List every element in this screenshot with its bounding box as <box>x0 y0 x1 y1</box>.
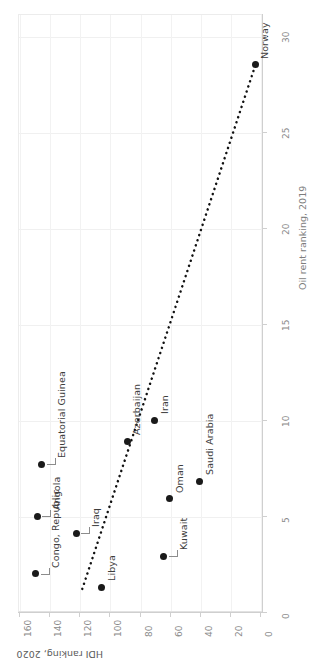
y-tick-label: 140 <box>53 620 63 637</box>
label-leader-line <box>55 458 56 465</box>
y-tick-mark <box>230 613 231 617</box>
y-tick-label: 40 <box>204 626 214 637</box>
y-tick-label: 120 <box>83 620 93 637</box>
label-leader-line <box>49 568 50 575</box>
data-point-label: Saudi Arabia <box>204 414 215 475</box>
x-tick-label: 30 <box>281 32 291 43</box>
data-point-label: Congo, Republic <box>50 489 61 567</box>
oil-rent-axis-spine <box>262 14 263 612</box>
data-point[interactable] <box>38 461 45 468</box>
gridline-vertical <box>141 15 142 611</box>
data-point[interactable] <box>34 513 41 520</box>
data-point[interactable] <box>151 417 158 424</box>
x-tick-mark <box>263 612 267 613</box>
y-tick-mark <box>170 613 171 617</box>
hdi-axis-spine <box>18 612 263 613</box>
x-tick-label: 0 <box>281 613 291 619</box>
x-tick-label: 10 <box>281 416 291 427</box>
gridline-vertical <box>201 15 202 611</box>
gridline-vertical <box>171 15 172 611</box>
x-tick-mark <box>263 516 267 517</box>
data-point-label: Iran <box>159 395 170 414</box>
y-tick-mark <box>140 613 141 617</box>
gridline-vertical <box>110 15 111 611</box>
x-tick-label: 5 <box>281 517 291 523</box>
data-point-label: Kuwait <box>178 518 189 550</box>
data-point[interactable] <box>98 584 105 591</box>
label-leader-line <box>89 527 90 534</box>
x-tick-mark <box>263 36 267 37</box>
y-tick-label: 160 <box>23 620 33 637</box>
x-tick-mark <box>263 420 267 421</box>
label-leader-line <box>177 550 178 557</box>
data-point-label: Norway <box>259 22 270 59</box>
data-point[interactable] <box>124 438 131 445</box>
data-point[interactable] <box>73 530 80 537</box>
x-tick-label: 20 <box>281 224 291 235</box>
gridline-vertical <box>20 15 21 611</box>
data-point-label: Iraq <box>90 508 101 527</box>
y-tick-mark <box>49 613 50 617</box>
x-tick-mark <box>263 132 267 133</box>
y-tick-label: 60 <box>174 626 184 637</box>
x-tick-mark <box>263 228 267 229</box>
data-point-label: Oman <box>174 464 185 493</box>
gridline-vertical <box>231 15 232 611</box>
y-axis-title: HDI ranking, 2020 <box>17 649 103 660</box>
y-tick-label: 20 <box>234 626 244 637</box>
x-tick-mark <box>263 324 267 325</box>
data-point-label: Libya <box>106 555 117 581</box>
x-tick-label: 15 <box>281 320 291 331</box>
y-tick-label: 100 <box>113 620 123 637</box>
y-tick-mark <box>260 613 261 617</box>
data-point-label: Equatorial Guinea <box>56 371 67 458</box>
gridline-vertical <box>80 15 81 611</box>
scatter-plot-figure: NorwayIranAzerbaijanSaudi ArabiaOmanEqua… <box>0 0 311 667</box>
y-tick-mark <box>79 613 80 617</box>
x-axis-title: Oil rent ranking, 2019 <box>297 186 308 290</box>
y-tick-label: 80 <box>144 626 154 637</box>
data-point-label: Azerbaijan <box>131 384 142 435</box>
y-tick-mark <box>109 613 110 617</box>
y-tick-mark <box>200 613 201 617</box>
data-point[interactable] <box>160 553 167 560</box>
y-tick-label: 0 <box>264 631 274 637</box>
y-tick-mark <box>19 613 20 617</box>
x-tick-label: 25 <box>281 128 291 139</box>
